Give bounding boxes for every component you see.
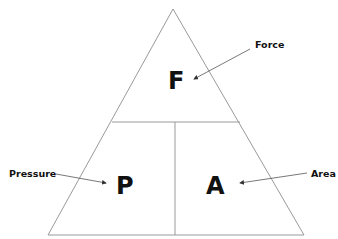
area-label: Area [311,168,336,179]
pressure-label: Pressure [9,168,56,179]
force-letter: F [168,67,184,95]
force-arrow [194,49,250,79]
pressure-letter: P [116,172,134,200]
force-label: Force [255,39,284,50]
area-letter: A [206,172,225,200]
pressure-triangle-diagram: F P A Force Pressure Area [0,0,338,239]
